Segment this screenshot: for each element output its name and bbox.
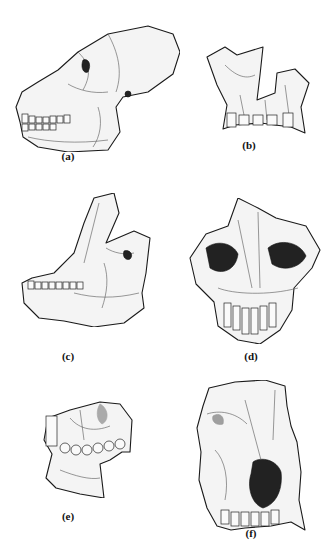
specimen-d-face-drawing [188,198,324,344]
panel-label-b: (b) [234,139,264,151]
panel-label-f: (f) [236,527,266,539]
specimen-b-maxilla-drawing [205,45,311,137]
panel-label-d: (d) [236,350,266,362]
specimen-c-cranium-drawing [14,193,152,327]
specimen-a-skull-drawing [8,12,180,152]
panel-label-e: (e) [53,510,83,522]
panel-label-c: (c) [53,350,83,362]
specimen-f-face-drawing [195,380,309,534]
panel-label-a: (a) [53,150,83,162]
specimen-e-jaw-drawing [40,400,134,498]
